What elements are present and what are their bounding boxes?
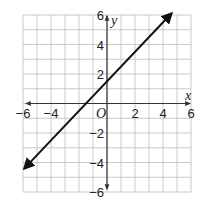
y-tick-label: 4 xyxy=(97,38,104,53)
y-tick-label: −4 xyxy=(89,156,104,171)
x-tick-label: 2 xyxy=(131,106,138,121)
coordinate-plane: −6−4246642−2−4−6 x y O xyxy=(0,0,204,201)
x-tick-label: −4 xyxy=(44,106,59,121)
y-tick-label: −6 xyxy=(89,185,104,200)
y-axis-label: y xyxy=(109,13,118,28)
x-tick-label: −6 xyxy=(16,106,31,121)
x-tick-label: 6 xyxy=(187,106,194,121)
y-tick-label: −2 xyxy=(89,126,104,141)
x-axis-label: x xyxy=(184,88,192,103)
origin-label: O xyxy=(96,106,106,121)
y-tick-label: 2 xyxy=(97,67,104,82)
y-tick-label: 6 xyxy=(97,8,104,23)
x-tick-label: 4 xyxy=(159,106,166,121)
